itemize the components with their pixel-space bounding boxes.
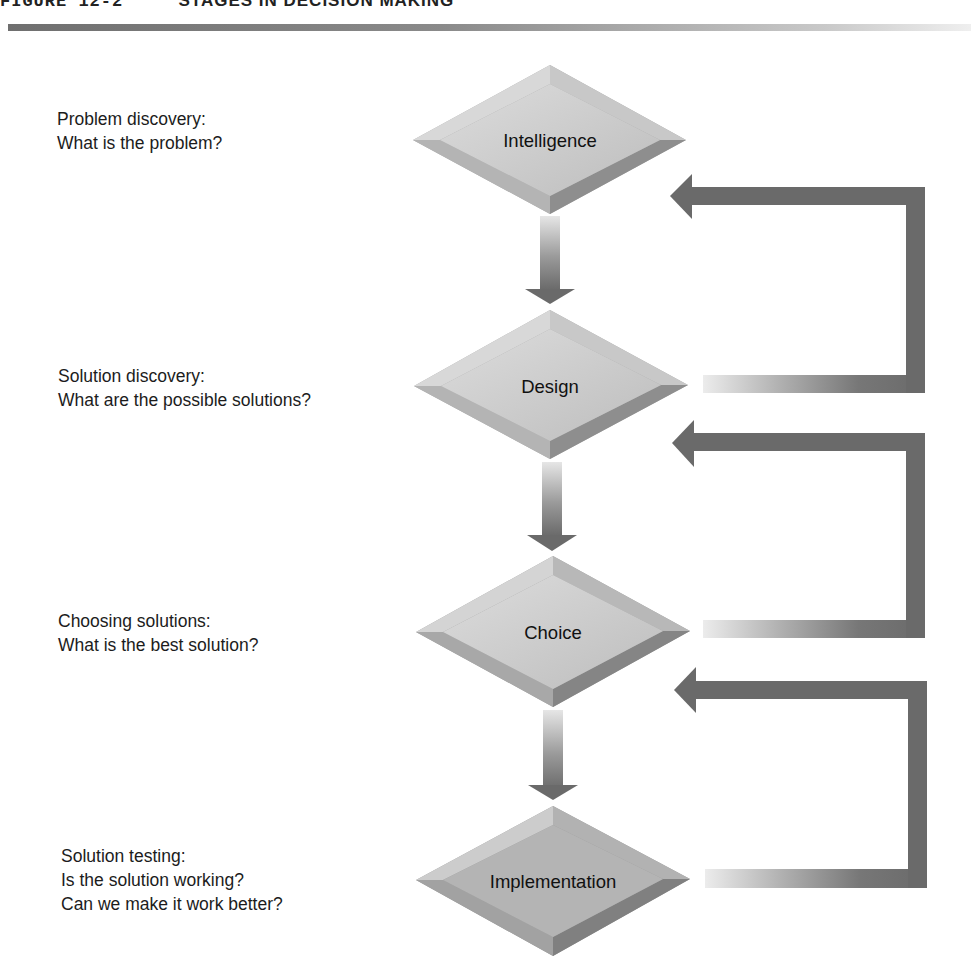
diamond-implementation: Implementation: [416, 806, 690, 956]
diamond-label: Intelligence: [503, 130, 597, 151]
diamond-choice: Choice: [416, 556, 690, 707]
decision-stages-diagram: Intelligence Design Choice Implementatio…: [0, 0, 971, 972]
down-arrow-choice-to-implementation: [528, 710, 578, 800]
diamond-label: Design: [521, 376, 579, 397]
feedback-arrow-implementation-to-choice: [674, 667, 927, 888]
diamond-label: Implementation: [490, 871, 616, 892]
feedback-arrow-choice-to-design: [672, 420, 925, 638]
diamond-intelligence: Intelligence: [413, 65, 686, 214]
diamond-label: Choice: [524, 622, 582, 643]
feedback-arrow-design-to-intelligence: [670, 174, 925, 393]
down-arrow-intelligence-to-design: [525, 216, 575, 304]
down-arrow-design-to-choice: [527, 462, 577, 551]
diamond-design: Design: [414, 310, 688, 459]
